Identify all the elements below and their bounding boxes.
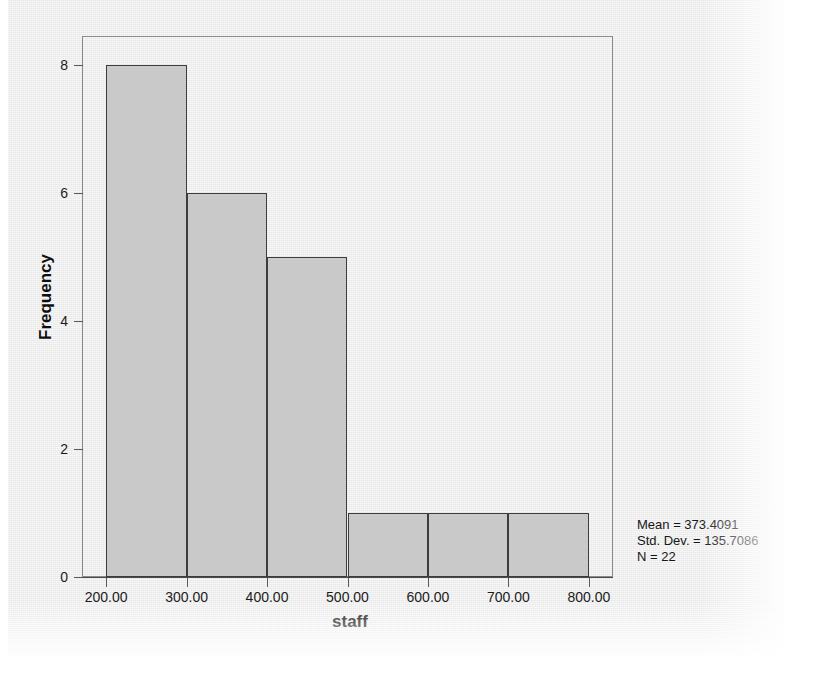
y-axis-title: Frequency bbox=[36, 232, 56, 362]
histogram-bar bbox=[267, 257, 347, 577]
histogram-bar bbox=[106, 65, 186, 577]
x-axis-tick bbox=[106, 578, 107, 587]
x-axis-tick bbox=[428, 578, 429, 587]
scan-edge-fade-right bbox=[700, 0, 820, 660]
y-axis-tick bbox=[74, 193, 83, 194]
y-axis-tick bbox=[74, 449, 83, 450]
x-axis-tick bbox=[348, 578, 349, 587]
x-axis-tick bbox=[187, 578, 188, 587]
histogram-bar bbox=[348, 513, 428, 577]
x-axis-tick bbox=[589, 578, 590, 587]
y-axis-tick-label: 6 bbox=[28, 186, 68, 200]
plot-area bbox=[83, 37, 612, 577]
y-axis-tick bbox=[74, 65, 83, 66]
y-axis-tick bbox=[74, 321, 83, 322]
scan-edge-fade-bottom bbox=[0, 600, 820, 687]
x-axis-tick bbox=[508, 578, 509, 587]
x-axis-tick bbox=[267, 578, 268, 587]
y-axis-tick-label: 2 bbox=[28, 442, 68, 456]
histogram-bar bbox=[428, 513, 508, 577]
histogram-figure: 02468 200.00300.00400.00500.00600.00700.… bbox=[0, 0, 820, 687]
histogram-bar bbox=[187, 193, 267, 577]
y-axis-tick-label: 8 bbox=[28, 58, 68, 72]
y-axis-tick-label: 0 bbox=[28, 570, 68, 584]
y-axis-tick bbox=[74, 577, 83, 578]
histogram-bar bbox=[508, 513, 588, 577]
